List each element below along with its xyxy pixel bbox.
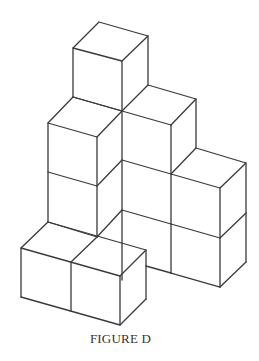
cube-block-front-bottom (21, 222, 146, 325)
cube-middle-right (122, 85, 196, 273)
cube-recessed-middle (97, 111, 171, 280)
cube-stack-left (48, 97, 122, 237)
cube-stack-diagram (0, 0, 259, 361)
cube-stack-right (171, 148, 246, 287)
cube-top (73, 22, 148, 111)
figure-caption: FIGURE D (0, 331, 241, 347)
